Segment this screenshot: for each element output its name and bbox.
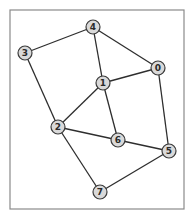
edge-1-2 bbox=[58, 83, 103, 127]
edge-1-0 bbox=[103, 68, 158, 83]
edge-4-0 bbox=[93, 27, 158, 68]
node-label: 2 bbox=[55, 122, 61, 132]
node-label: 0 bbox=[155, 63, 161, 73]
node-3: 3 bbox=[18, 46, 32, 60]
edge-0-5 bbox=[158, 68, 169, 151]
edge-5-7 bbox=[100, 151, 169, 192]
node-label: 3 bbox=[22, 48, 28, 58]
edge-6-5 bbox=[118, 140, 169, 151]
node-6: 6 bbox=[111, 133, 125, 147]
edge-layer bbox=[25, 27, 169, 192]
node-label: 1 bbox=[100, 78, 106, 88]
edge-1-6 bbox=[103, 83, 118, 140]
node-label: 5 bbox=[166, 146, 172, 156]
node-label: 7 bbox=[97, 187, 103, 197]
node-label: 4 bbox=[90, 22, 96, 32]
node-7: 7 bbox=[93, 185, 107, 199]
edge-2-7 bbox=[58, 127, 100, 192]
edge-3-2 bbox=[25, 53, 58, 127]
node-label: 6 bbox=[115, 135, 121, 145]
edge-2-6 bbox=[58, 127, 118, 140]
edge-4-3 bbox=[25, 27, 93, 53]
graph-diagram: 01234567 bbox=[0, 0, 194, 220]
diagram-frame bbox=[10, 10, 184, 209]
node-4: 4 bbox=[86, 20, 100, 34]
edge-4-1 bbox=[93, 27, 103, 83]
node-5: 5 bbox=[162, 144, 176, 158]
node-2: 2 bbox=[51, 120, 65, 134]
node-1: 1 bbox=[96, 76, 110, 90]
node-0: 0 bbox=[151, 61, 165, 75]
